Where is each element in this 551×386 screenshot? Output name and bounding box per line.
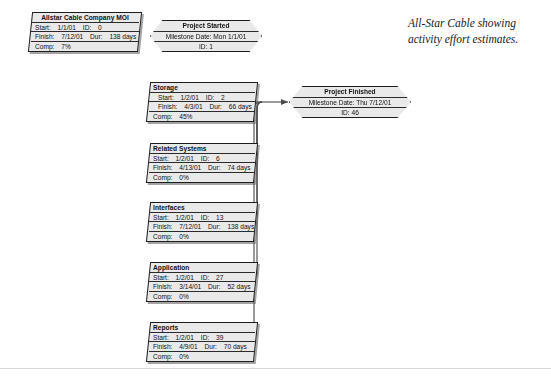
label-comp-storage: Comp:: [153, 112, 172, 122]
node-reports-start: 1/2/01: [171, 333, 194, 343]
node-storage-comp: 45%: [174, 112, 192, 122]
node-project-finished-date-row: Milestone Date: Thu 7/12/01: [290, 97, 410, 107]
node-reports-finish-row: Finish: 4/9/01 Dur: 70 days: [149, 342, 255, 352]
node-project-started-title: Project Started: [151, 21, 261, 31]
node-summary-start-row: Start: 1/1/01 ID: 0: [31, 23, 139, 33]
connector-application: [249, 102, 262, 281]
node-related-systems-start-row: Start: 1/2/01 ID: 6: [149, 154, 255, 164]
label-finish-reports: Finish:: [153, 342, 172, 352]
node-application[interactable]: Application Start: 1/2/01 ID: 27 Finish:…: [146, 262, 258, 302]
node-related-systems-start: 1/2/01: [171, 154, 194, 164]
node-summary-finish-row: Finish: 7/12/01 Dur: 138 days: [31, 32, 139, 42]
node-application-start-row: Start: 1/2/01 ID: 27: [149, 273, 255, 283]
node-reports-dur: 70 days: [219, 342, 247, 352]
figure-caption-line1: All-Star Cable showing: [408, 16, 551, 32]
label-dur-interfaces: Dur:: [203, 222, 220, 232]
node-summary-finish: 7/12/01: [56, 32, 83, 42]
node-project-started-id-row: ID: 1: [151, 41, 261, 51]
node-project-finished-title: Project Finished: [290, 87, 410, 97]
node-related-systems-comp: 0%: [174, 173, 189, 183]
node-summary-comp: 7%: [56, 42, 71, 52]
node-application-id: 27: [211, 273, 223, 283]
node-summary-title: Allstar Cable Company MOI: [31, 13, 139, 23]
node-reports-start-row: Start: 1/2/01 ID: 39: [149, 333, 255, 343]
node-storage[interactable]: Storage Start: 1/2/01 ID: 2 Finish: 4/3/…: [146, 82, 258, 122]
node-summary-start: 1/1/01: [53, 23, 76, 33]
node-application-finish: 3/14/01: [174, 282, 201, 292]
label-id: ID:: [78, 23, 91, 33]
node-project-finished-id-row: ID: 46: [290, 107, 410, 117]
node-related-systems-finish: 4/13/01: [174, 163, 201, 173]
label-dur-related: Dur:: [203, 163, 220, 173]
node-project-finished[interactable]: Project Finished Milestone Date: Thu 7/1…: [289, 86, 411, 118]
node-project-started-date-row: Milestone Date: Mon 1/1/01: [151, 31, 261, 41]
node-reports-title: Reports: [149, 323, 255, 333]
label-id-interfaces: ID:: [196, 213, 209, 223]
label-finish-application: Finish:: [153, 282, 172, 292]
connector-layer: [0, 0, 551, 386]
connector-arrowhead: [281, 99, 288, 105]
label-start-reports: Start:: [153, 333, 169, 343]
label-id-ms-finish: ID:: [341, 109, 349, 116]
label-id-application: ID:: [196, 273, 209, 283]
label-milestone-date-finish: Milestone Date:: [309, 99, 355, 106]
node-summary-comp-row: Comp: 7%: [31, 42, 139, 52]
node-application-comp-row: Comp: 0%: [149, 292, 255, 302]
node-related-systems-id: 6: [211, 154, 220, 164]
diagram-canvas: Allstar Cable Company MOI Start: 1/1/01 …: [0, 0, 551, 386]
node-application-dur: 52 days: [222, 282, 250, 292]
node-project-finished-id: 46: [351, 109, 358, 116]
label-finish-related: Finish:: [153, 163, 172, 173]
node-related-systems-comp-row: Comp: 0%: [149, 173, 255, 183]
node-storage-start-row: Start: 1/2/01 ID: 2: [149, 93, 255, 103]
label-dur-reports: Dur:: [199, 342, 216, 352]
label-dur-storage: Dur:: [204, 102, 221, 112]
node-reports[interactable]: Reports Start: 1/2/01 ID: 39 Finish: 4/9…: [146, 322, 258, 362]
label-id-reports: ID:: [196, 333, 209, 343]
node-reports-comp: 0%: [174, 352, 189, 362]
label-id-related: ID:: [196, 154, 209, 164]
node-project-started-date: Mon 1/1/01: [213, 33, 246, 40]
node-storage-id: 2: [216, 93, 225, 103]
node-summary-id: 0: [93, 23, 102, 33]
node-storage-comp-row: Comp: 45%: [149, 112, 255, 122]
figure-caption-line2: activity effort estimates.: [408, 32, 551, 48]
node-project-started-id: 1: [209, 43, 213, 50]
label-id-storage: ID:: [201, 93, 214, 103]
node-related-systems-title: Related Systems: [149, 144, 255, 154]
node-application-title: Application: [149, 263, 255, 273]
node-related-systems[interactable]: Related Systems Start: 1/2/01 ID: 6 Fini…: [146, 143, 258, 183]
node-application-comp: 0%: [174, 292, 189, 302]
node-interfaces-comp: 0%: [174, 232, 189, 242]
label-finish-interfaces: Finish:: [153, 222, 172, 232]
label-comp-application: Comp:: [153, 292, 172, 302]
label-finish: Finish:: [35, 32, 54, 42]
node-application-start: 1/2/01: [171, 273, 194, 283]
node-interfaces-start-row: Start: 1/2/01 ID: 13: [149, 213, 255, 223]
node-reports-id: 39: [211, 333, 223, 343]
node-interfaces[interactable]: Interfaces Start: 1/2/01 ID: 13 Finish: …: [146, 202, 258, 242]
label-comp-related: Comp:: [153, 173, 172, 183]
node-reports-comp-row: Comp: 0%: [149, 352, 255, 362]
node-storage-finish: 4/3/01: [179, 102, 202, 112]
node-related-systems-dur: 74 days: [222, 163, 250, 173]
node-storage-start: 1/2/01: [176, 93, 199, 103]
label-start-application: Start:: [153, 273, 169, 283]
label-dur: Dur:: [85, 32, 102, 42]
node-project-started[interactable]: Project Started Milestone Date: Mon 1/1/…: [150, 20, 262, 52]
node-application-finish-row: Finish: 3/14/01 Dur: 52 days: [149, 282, 255, 292]
node-interfaces-id: 13: [211, 213, 223, 223]
node-interfaces-start: 1/2/01: [171, 213, 194, 223]
node-storage-title: Storage: [149, 83, 255, 93]
node-interfaces-finish-row: Finish: 7/12/01 Dur: 138 days: [149, 222, 255, 232]
label-finish-storage: Finish:: [153, 102, 177, 112]
node-summary[interactable]: Allstar Cable Company MOI Start: 1/1/01 …: [28, 12, 142, 52]
label-start-interfaces: Start:: [153, 213, 169, 223]
node-summary-dur: 138 days: [104, 32, 136, 42]
label-start-related: Start:: [153, 154, 169, 164]
node-interfaces-comp-row: Comp: 0%: [149, 232, 255, 242]
node-storage-finish-row: Finish: 4/3/01 Dur: 66 days: [149, 102, 255, 112]
label-milestone-date: Milestone Date:: [166, 33, 212, 40]
node-interfaces-dur: 138 days: [222, 222, 254, 232]
node-reports-finish: 4/9/01: [174, 342, 197, 352]
